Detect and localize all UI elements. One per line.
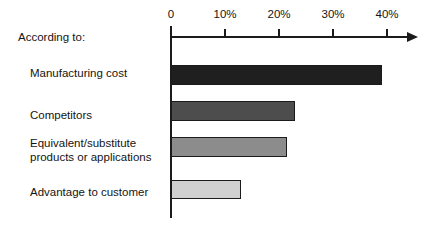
axis-horizontal-line (170, 36, 407, 38)
axis-tick-mark (278, 29, 280, 36)
bar-category-label-line: Manufacturing cost (30, 66, 127, 80)
axis-tick-label: 10% (213, 8, 236, 21)
axis-tick-mark (332, 29, 334, 36)
axis-tick-mark (224, 29, 226, 36)
bar (171, 101, 295, 121)
bar (171, 65, 382, 85)
axis-tick-label: 30% (321, 8, 344, 21)
bar-category-label: Advantage to customer (30, 185, 148, 199)
bar (171, 137, 287, 157)
bar-category-label-line: Equivalent/substitute (30, 136, 151, 150)
bar-category-label: Manufacturing cost (30, 66, 127, 80)
bar-category-label: Equivalent/substituteproducts or applica… (30, 136, 151, 164)
bar-category-label: Competitors (30, 108, 92, 122)
axis-tick-mark (386, 29, 388, 36)
axis-tick-label: 0 (168, 8, 174, 21)
bar-category-label-line: Competitors (30, 108, 92, 122)
bar-chart-figure: According to: 010%20%30%40% Manufacturin… (0, 0, 441, 230)
bar-category-label-line: Advantage to customer (30, 185, 148, 199)
axis-arrow-icon (407, 32, 418, 42)
axis-tick-label: 20% (267, 8, 290, 21)
bar (171, 180, 241, 199)
axis-tick-label: 40% (375, 8, 398, 21)
bar-category-label-line: products or applications (30, 150, 151, 164)
chart-prompt-label: According to: (18, 30, 85, 44)
